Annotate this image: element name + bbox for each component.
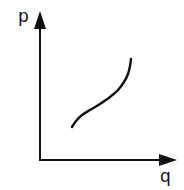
x-axis-arrow-icon bbox=[159, 154, 177, 166]
y-axis-label: p bbox=[18, 8, 29, 25]
x-axis-label: q bbox=[160, 168, 171, 185]
y-axis-arrow-icon bbox=[34, 11, 46, 29]
chart-canvas bbox=[0, 0, 184, 190]
curve-line bbox=[72, 59, 131, 127]
